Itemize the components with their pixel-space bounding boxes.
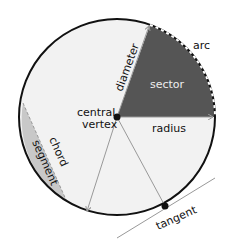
circle-diagram: arc sector diameter central vertex radiu… bbox=[0, 0, 229, 249]
tangent-label: tangent bbox=[154, 203, 199, 233]
sector-label: sector bbox=[150, 78, 185, 91]
radius-label: radius bbox=[152, 122, 186, 135]
tangent-point bbox=[162, 203, 169, 210]
central-vertex-label-2: vertex bbox=[82, 118, 118, 131]
arc-label: arc bbox=[193, 39, 210, 52]
